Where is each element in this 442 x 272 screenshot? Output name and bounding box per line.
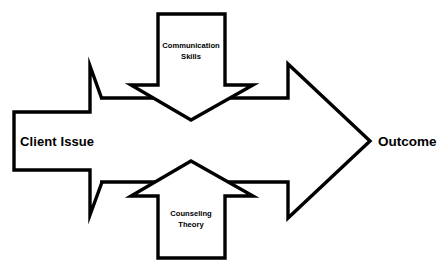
diagram-canvas: Client Issue Outcome Communication Skill… <box>0 0 442 272</box>
communication-skills-label-line2: Skills <box>181 52 201 61</box>
client-issue-label: Client Issue <box>20 134 94 149</box>
outcome-label: Outcome <box>378 134 437 149</box>
counseling-theory-label-line1: Counseling <box>170 209 212 218</box>
process-flow-diagram: Client Issue Outcome Communication Skill… <box>0 0 442 272</box>
counseling-theory-label-line2: Theory <box>178 220 204 229</box>
communication-skills-label-line1: Communication <box>162 41 220 50</box>
